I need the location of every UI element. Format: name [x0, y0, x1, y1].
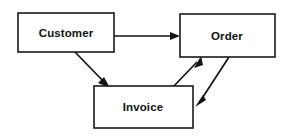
node-order[interactable]: Order — [180, 14, 275, 57]
edge-order-to-invoice-arrowhead — [195, 95, 206, 107]
diagram-canvas: Customer Order Invoice — [0, 0, 294, 136]
node-customer[interactable]: Customer — [18, 13, 114, 52]
edge-order-to-invoice-line — [201, 57, 229, 100]
diagram-svg: Customer Order Invoice — [0, 0, 294, 136]
edge-customer-to-invoice — [75, 52, 110, 88]
edge-customer-to-order — [114, 32, 180, 40]
node-customer-label: Customer — [39, 27, 94, 39]
node-invoice-label: Invoice — [123, 101, 163, 113]
node-invoice[interactable]: Invoice — [94, 86, 193, 128]
edge-customer-to-order-arrowhead — [170, 32, 180, 40]
edge-customer-to-invoice-line — [75, 52, 105, 83]
edge-invoice-to-order-line — [172, 62, 197, 88]
edge-invoice-to-order — [172, 56, 203, 88]
node-order-label: Order — [211, 30, 243, 42]
